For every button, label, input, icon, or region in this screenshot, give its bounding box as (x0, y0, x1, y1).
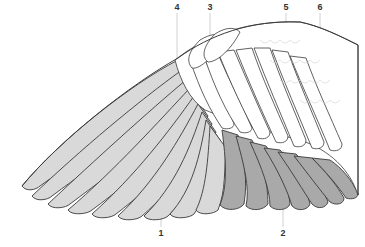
label-2: 2 (280, 229, 285, 238)
wing-diagram (0, 0, 365, 247)
label-4: 4 (174, 3, 179, 12)
label-1: 1 (158, 229, 163, 238)
label-6: 6 (317, 3, 322, 12)
label-3: 3 (207, 3, 212, 12)
label-5: 5 (283, 3, 288, 12)
